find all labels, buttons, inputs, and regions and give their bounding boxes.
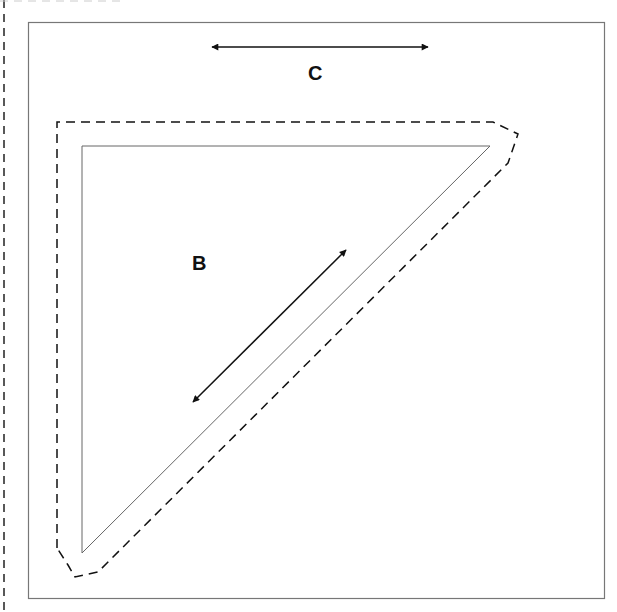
diagram-canvas: C B	[0, 0, 617, 612]
arrow-b	[193, 250, 346, 402]
outer-frame	[29, 23, 605, 599]
triangle-shape	[82, 146, 490, 553]
label-c: C	[308, 62, 322, 84]
label-b: B	[192, 252, 206, 274]
